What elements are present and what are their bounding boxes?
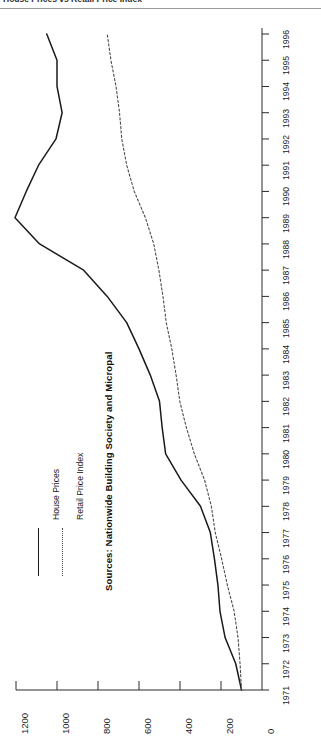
x-axis-tick-label: 1982 bbox=[282, 397, 291, 416]
y-axis-tick-label: 800 bbox=[102, 718, 112, 734]
x-axis-tick-label: 1978 bbox=[282, 502, 291, 521]
x-axis-tick-label: 1994 bbox=[282, 82, 291, 101]
x-axis-tick-label: 1984 bbox=[282, 345, 291, 364]
x-axis-tick-label: 1988 bbox=[282, 240, 291, 259]
x-axis-tick-label: 1990 bbox=[282, 187, 291, 206]
x-axis-tick-label: 1989 bbox=[282, 214, 291, 233]
legend-swatch-solid bbox=[38, 528, 39, 576]
chart-page: House Prices vs Retail Price Index 12001… bbox=[0, 0, 321, 738]
x-axis-tick-label: 1995 bbox=[282, 56, 291, 75]
axis-ticks bbox=[16, 34, 269, 690]
x-axis-tick-label: 1993 bbox=[282, 109, 291, 128]
x-axis-tick-label: 1987 bbox=[282, 266, 291, 285]
x-axis-tick-label: 1976 bbox=[282, 555, 291, 574]
y-axis-tick-label: 200 bbox=[225, 718, 235, 734]
y-axis-tick-label: 1000 bbox=[61, 713, 71, 734]
y-axis-tick-label: 1200 bbox=[20, 713, 30, 734]
x-axis-tick-label: 1977 bbox=[282, 528, 291, 547]
x-axis-tick-label: 1991 bbox=[282, 161, 291, 180]
y-axis-tick-label: 400 bbox=[184, 718, 194, 734]
source-caption: Sources: Nationwide Building Society and… bbox=[104, 352, 114, 591]
data-series bbox=[15, 34, 242, 690]
legend-label: Retail Price Index bbox=[76, 453, 85, 520]
x-axis-tick-label: 1992 bbox=[282, 135, 291, 154]
x-axis-tick-label: 1979 bbox=[282, 476, 291, 495]
x-axis-tick-label: 1973 bbox=[282, 633, 291, 652]
x-axis-tick-label: 1972 bbox=[282, 660, 291, 679]
chart-plot-area bbox=[0, 0, 321, 738]
x-axis-tick-label: 1996 bbox=[282, 30, 291, 49]
x-axis-tick-label: 1980 bbox=[282, 450, 291, 469]
y-axis-tick-label: 600 bbox=[143, 718, 153, 734]
x-axis-tick-label: 1971 bbox=[282, 686, 291, 705]
series-line-1 bbox=[15, 34, 242, 690]
axes-group bbox=[16, 28, 262, 690]
legend-swatch-dashed bbox=[62, 528, 63, 576]
legend-label: House Prices bbox=[52, 469, 61, 520]
x-axis-tick-label: 1975 bbox=[282, 581, 291, 600]
x-axis-tick-label: 1981 bbox=[282, 423, 291, 442]
x-axis-tick-label: 1983 bbox=[282, 371, 291, 390]
x-axis-tick-label: 1985 bbox=[282, 319, 291, 338]
chart-canvas bbox=[0, 0, 321, 738]
series-line-2 bbox=[107, 34, 241, 690]
x-axis-tick-label: 1986 bbox=[282, 292, 291, 311]
x-axis-tick-label: 1974 bbox=[282, 607, 291, 626]
y-axis-tick-label: 0 bbox=[266, 729, 276, 734]
